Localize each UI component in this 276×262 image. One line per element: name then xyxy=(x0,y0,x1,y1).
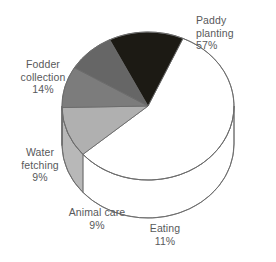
slice-value-paddy-planting: 57% xyxy=(196,39,234,52)
slice-label-animal-care-line1: Animal care xyxy=(69,206,126,218)
slice-label-water-fetching-line2: fetching xyxy=(21,159,59,171)
slice-label-paddy-planting-line2: planting xyxy=(196,27,234,39)
slice-label-paddy-planting-line1: Paddy xyxy=(196,14,226,26)
slice-value-eating: 11% xyxy=(133,235,197,248)
slice-label-water-fetching: Water fetching 9% xyxy=(4,146,76,184)
slice-label-eating: Eating 11% xyxy=(133,222,197,247)
slice-label-fodder-collection-line1: Fodder xyxy=(26,58,60,70)
slice-label-paddy-planting: Paddy planting 57% xyxy=(196,14,234,52)
slice-label-fodder-collection-line2: collection xyxy=(21,71,66,83)
slice-value-water-fetching: 9% xyxy=(4,171,76,184)
slice-label-eating-line1: Eating xyxy=(150,222,180,234)
slice-label-water-fetching-line1: Water xyxy=(26,146,54,158)
slice-label-fodder-collection: Fodder collection 14% xyxy=(6,58,80,96)
slice-value-fodder-collection: 14% xyxy=(6,83,80,96)
pie-chart-figure: Paddy planting 57% Fodder collection 14%… xyxy=(0,0,276,262)
